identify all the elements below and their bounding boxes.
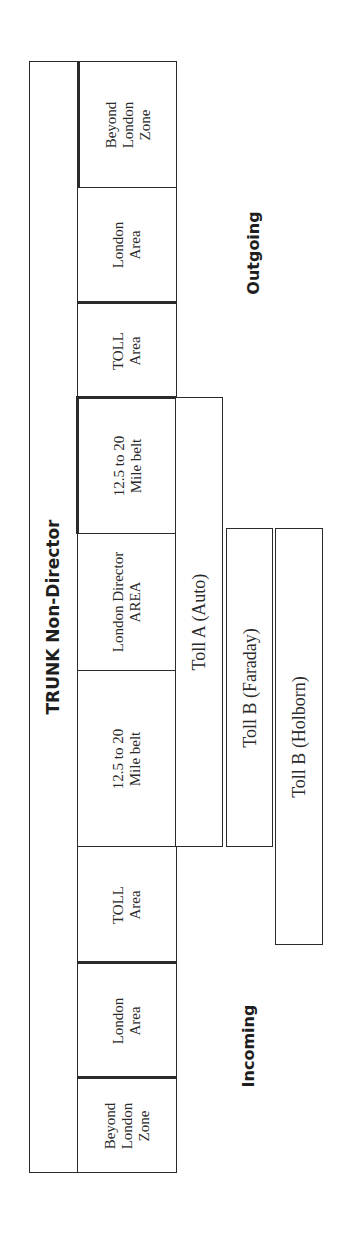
exchange-label: Toll A (Auto)	[189, 574, 210, 671]
diagram-title: TRUNK Non-Director	[43, 520, 63, 715]
zone-line: TOLL	[110, 885, 127, 923]
exchange-toll-a-auto: Toll A (Auto)	[175, 397, 223, 847]
zone-line: Beyond	[103, 101, 120, 148]
title-strip: TRUNK Non-Director	[29, 61, 77, 1173]
exchange-toll-b-holborn: Toll B (Holborn)	[275, 528, 323, 945]
zone-line: London	[110, 997, 127, 1044]
exchange-label: Toll B (Holborn)	[289, 676, 310, 798]
incoming-label-wrap: Incoming	[231, 988, 265, 1103]
zone-line: London	[120, 101, 137, 148]
zone-line: London	[110, 222, 127, 269]
zone-line: Mile belt	[128, 436, 145, 496]
zone-incoming-london-area: London Area	[77, 961, 177, 1078]
zone-line: London Director	[110, 552, 127, 652]
zone-line: TOLL	[110, 331, 127, 369]
zone-incoming-beyond-london-zone: Beyond London Zone	[77, 1076, 177, 1173]
outgoing-label: Outgoing	[244, 211, 263, 294]
zone-line: Area	[127, 331, 144, 369]
zone-incoming-mile-belt: 12.5 to 20 Mile belt	[77, 670, 177, 847]
zone-outgoing-london-area: London Area	[77, 187, 177, 303]
zone-incoming-toll-area: TOLL Area	[77, 846, 177, 963]
zone-line: Beyond	[102, 1102, 119, 1149]
incoming-label: Incoming	[239, 1004, 258, 1087]
zone-outgoing-toll-area: TOLL Area	[77, 301, 177, 398]
zone-line: Area	[127, 885, 144, 923]
zone-line: London	[119, 1102, 136, 1149]
zone-line: AREA	[127, 552, 144, 652]
zone-line: Zone	[137, 101, 154, 148]
zone-outgoing-beyond-london-zone: Beyond London Zone	[77, 61, 177, 188]
zone-line: Area	[127, 222, 144, 269]
zone-line: Area	[127, 997, 144, 1044]
zone-line: Mile belt	[127, 728, 144, 788]
zone-line: 12.5 to 20	[110, 728, 127, 788]
zone-outgoing-mile-belt: 12.5 to 20 Mile belt	[76, 396, 177, 534]
exchange-toll-b-faraday: Toll B (Faraday)	[226, 528, 273, 847]
zone-line: Zone	[136, 1102, 153, 1149]
outgoing-label-wrap: Outgoing	[236, 195, 270, 310]
zone-line: 12.5 to 20	[111, 436, 128, 496]
exchange-label: Toll B (Faraday)	[239, 628, 260, 748]
zone-london-director-area: London Director AREA	[77, 533, 177, 671]
